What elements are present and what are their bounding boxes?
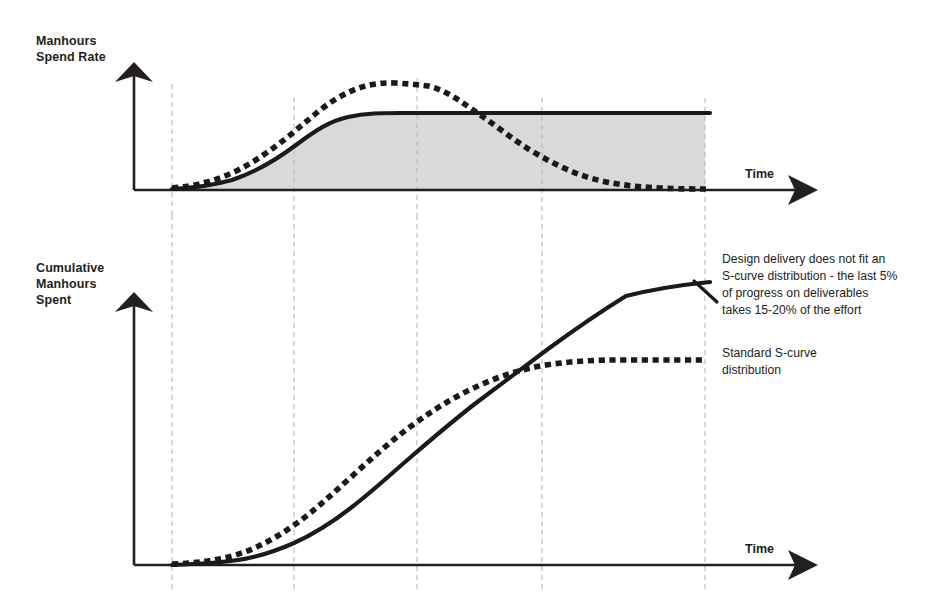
bottom-chart-design-cumulative-curve xyxy=(172,282,710,565)
top-chart-y-axis xyxy=(115,62,153,190)
top-chart: Manhours Spend Rate Time xyxy=(36,34,818,215)
standard-s-curve-note: Standard S-curve distribution xyxy=(722,346,820,377)
bottom-chart-standard-cumulative-curve xyxy=(172,360,706,564)
bottom-chart-y-axis xyxy=(115,292,153,565)
s-curve-comparison-figure: Manhours Spend Rate Time xyxy=(0,0,952,613)
top-chart-shaded-area xyxy=(172,113,705,190)
design-delivery-note: Design delivery does not fit an S-curve … xyxy=(722,252,901,317)
bottom-chart-y-axis-label: Cumulative Manhours Spent xyxy=(36,261,108,307)
annotations: Design delivery does not fit an S-curve … xyxy=(722,252,901,377)
bottom-chart-x-axis-label: Time xyxy=(745,542,774,556)
bottom-chart-gridlines xyxy=(172,215,705,592)
top-chart-y-axis-label: Manhours Spend Rate xyxy=(36,34,106,64)
top-chart-x-axis-label: Time xyxy=(745,167,774,181)
bottom-chart: Cumulative Manhours Spent Time xyxy=(36,215,818,592)
